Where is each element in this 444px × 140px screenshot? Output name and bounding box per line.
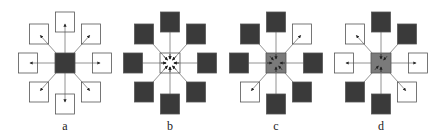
flow-arrow-bottom_right — [72, 70, 90, 90]
neighbor-cell-top-right — [187, 24, 206, 44]
flow-arrow-top_right — [283, 35, 301, 55]
neighbor-cell-top — [372, 12, 391, 32]
panel-d: d — [335, 12, 428, 133]
panel-label: d — [378, 119, 384, 133]
neighbor-cell-right — [198, 53, 217, 73]
neighbourhood-diagram-figure: abcd — [0, 0, 444, 140]
neighbor-cell-top-right — [398, 24, 417, 44]
center-cell — [55, 53, 75, 73]
flow-arrow-top_left — [40, 35, 58, 55]
panel-a: a — [19, 12, 112, 133]
panel-label: a — [62, 119, 68, 133]
neighbor-cell-top — [267, 12, 286, 32]
panel-c: c — [230, 12, 323, 133]
neighbor-cell-bottom-left — [346, 82, 365, 102]
flow-arrow-top_right — [72, 35, 90, 55]
panel-label: b — [167, 119, 173, 133]
neighbor-cell-bottom — [372, 94, 391, 114]
neighbor-cell-left — [124, 53, 143, 73]
neighbor-cell-left — [230, 53, 249, 73]
neighbor-cell-bottom-right — [293, 82, 312, 102]
neighbor-cell-bottom — [267, 94, 286, 114]
neighbor-cell-bottom-left — [135, 82, 154, 102]
flow-arrow-bottom_left — [251, 70, 269, 90]
neighbor-cell-right — [304, 53, 323, 73]
panel-label: c — [273, 119, 278, 133]
flow-arrow-bottom_right — [388, 70, 406, 90]
panel-b: b — [124, 12, 217, 133]
neighbor-cell-top-left — [241, 24, 260, 44]
neighbor-cell-bottom — [161, 94, 180, 114]
flow-arrow-top_left — [356, 35, 374, 55]
neighbor-cell-bottom-right — [187, 82, 206, 102]
flow-arrow-bottom_left — [40, 70, 58, 90]
neighbor-cell-top — [161, 12, 180, 32]
neighbor-cell-top-left — [135, 24, 154, 44]
